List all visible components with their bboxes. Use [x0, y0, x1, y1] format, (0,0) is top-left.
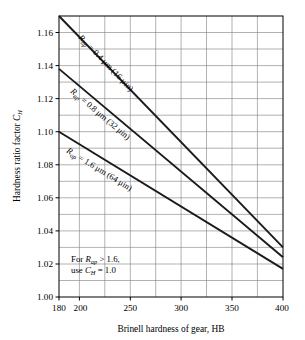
y-tick-label: 1.00: [37, 292, 53, 302]
chart-figure: 1.00 1.02 1.04 1.06 1.08 1.10 1.12 1.14 …: [0, 0, 305, 340]
y-tick-label: 1.16: [37, 28, 53, 38]
y-axis-tick-labels: 1.00 1.02 1.04 1.06 1.08 1.10 1.12 1.14 …: [37, 28, 53, 303]
x-tick-label: 200: [74, 303, 88, 313]
note-post: > 1.6,: [97, 254, 120, 264]
x-tick-label: 400: [275, 303, 289, 313]
y-tick-label: 1.04: [37, 226, 53, 236]
note-pre: For: [71, 254, 85, 264]
y-axis-title-main: Hardness ratio factor: [12, 121, 22, 202]
x-tick-marks: [59, 297, 283, 301]
y-tick-label: 1.14: [37, 61, 53, 71]
y-tick-label: 1.06: [37, 193, 53, 203]
x-tick-label: 180: [52, 303, 66, 313]
y-tick-marks: [56, 33, 60, 298]
y-tick-label: 1.10: [37, 127, 53, 137]
note-post: = 1.0: [95, 265, 116, 275]
hardness-ratio-factor-chart: 1.00 1.02 1.04 1.06 1.08 1.10 1.12 1.14 …: [0, 0, 305, 340]
plot-background: [59, 16, 283, 297]
y-axis-title-subscript: H: [16, 110, 23, 116]
svg-text:Hardness ratio factor CH: Hardness ratio factor CH: [12, 110, 23, 202]
x-tick-label: 300: [174, 303, 188, 313]
y-axis-title: Hardness ratio factor CH: [12, 110, 23, 202]
x-axis-tick-labels: 180 200 250 300 350 400: [52, 303, 289, 313]
x-tick-label: 350: [225, 303, 239, 313]
y-tick-label: 1.12: [37, 94, 53, 104]
annotation-note: For Rap > 1.6, use CH = 1.0: [71, 254, 120, 276]
y-tick-label: 1.02: [37, 259, 53, 269]
y-tick-label: 1.08: [37, 160, 53, 170]
x-tick-label: 250: [123, 303, 137, 313]
note-pre: use: [71, 265, 85, 275]
x-axis-title: Brinell hardness of gear, HB: [117, 324, 224, 334]
